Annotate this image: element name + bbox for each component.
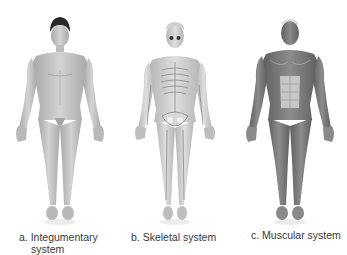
caption-integumentary-line2: system [19, 243, 98, 255]
figure-muscular [230, 0, 347, 225]
muscular-body-icon [230, 0, 347, 225]
caption-skeletal: b. Skeletal system [131, 231, 216, 243]
skeletal-body-icon [120, 0, 230, 225]
caption-integumentary: a. Integumentary system [19, 231, 98, 255]
figure-integumentary [0, 0, 120, 225]
caption-muscular: c. Muscular system [251, 229, 341, 241]
integumentary-body-icon [0, 0, 120, 225]
figure-skeletal [120, 0, 230, 225]
caption-integumentary-line1: a. Integumentary [19, 231, 98, 243]
